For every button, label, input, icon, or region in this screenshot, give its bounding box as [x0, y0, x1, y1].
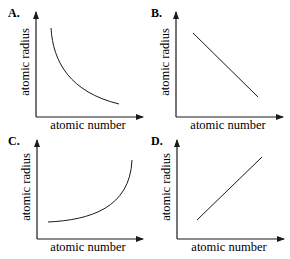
panel-label-a: A. [8, 6, 20, 20]
panel-b: B. atomic number atomic radius [151, 6, 283, 132]
x-axis-label-a: atomic number [50, 118, 126, 132]
panel-label-d: D. [151, 134, 163, 148]
panel-c: C. atomic number atomic radius [8, 134, 143, 254]
panel-a: A. atomic number atomic radius [8, 6, 143, 132]
x-axis-label-d: atomic number [191, 240, 267, 254]
y-axis-label-d: atomic radius [159, 153, 173, 221]
figure-canvas: A. atomic number atomic radius B. atomic… [0, 0, 290, 259]
line-b [193, 33, 258, 97]
curve-c [48, 160, 132, 222]
x-axis-label-b: atomic number [190, 118, 266, 132]
panel-label-c: C. [8, 134, 20, 148]
y-axis-label-a: atomic radius [18, 28, 32, 96]
line-d [197, 157, 262, 220]
y-axis-label-b: atomic radius [158, 28, 172, 96]
panel-d: D. atomic number atomic radius [151, 134, 284, 254]
x-axis-label-c: atomic number [50, 240, 126, 254]
y-axis-label-c: atomic radius [19, 153, 33, 221]
curve-a [51, 28, 119, 104]
panel-label-b: B. [151, 6, 162, 20]
